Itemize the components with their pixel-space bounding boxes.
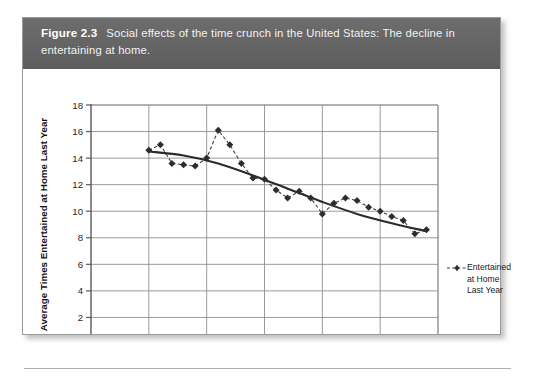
svg-text:18: 18 [72,100,83,111]
svg-text:16: 16 [72,126,83,137]
chart-y-axis-label: Average Times Entertained at Home Last Y… [38,118,49,331]
line-chart: 1970197519801985199019952000 02468101214… [23,69,500,334]
legend-label-line2: at Home [467,274,499,284]
legend-label-line1: Entertained [467,262,511,272]
figure-card: Figure 2.3Social effects of the time cru… [22,17,501,335]
svg-text:6: 6 [78,259,83,270]
page-horizontal-rule [24,368,511,369]
svg-text:2: 2 [78,312,83,323]
figure-number-label: Figure 2.3 [41,26,97,39]
chart-series-entertained-at-home [145,127,430,238]
figure-caption-text: Social effects of the time crunch in the… [41,27,455,56]
chart-y-tick-marks [86,105,91,334]
chart-y-tick-labels: 024681012141618 [72,100,83,334]
legend-marker-icon [447,263,467,273]
svg-text:14: 14 [72,153,83,164]
legend-item-entertained-at-home: Entertained at Home Last Year [447,262,505,297]
legend-label-group: Entertained at Home Last Year [467,262,511,297]
svg-text:12: 12 [72,179,83,190]
figure-caption-bar: Figure 2.3Social effects of the time cru… [23,18,500,69]
chart-series-trend [149,151,427,231]
svg-text:8: 8 [78,232,83,243]
svg-text:10: 10 [72,206,83,217]
chart-plot-area: 1970197519801985199019952000 02468101214… [23,69,500,334]
figure-caption: Figure 2.3Social effects of the time cru… [41,25,486,58]
legend-label-line3: Last Year [467,285,503,295]
chart-legend: Entertained at Home Last Year [447,262,505,297]
svg-text:Average Times Entertained at H: Average Times Entertained at Home Last Y… [38,118,49,331]
chart-axes [91,104,439,334]
svg-text:4: 4 [78,285,84,296]
chart-gridlines [91,105,438,334]
